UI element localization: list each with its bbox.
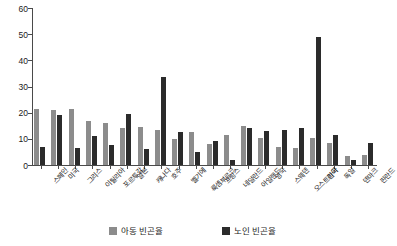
square-swatch-dark xyxy=(222,227,230,235)
bar-elderly-poverty xyxy=(316,37,321,165)
bar-elderly-poverty xyxy=(40,147,45,165)
x-axis-tick-label: 프랑스 xyxy=(223,167,241,185)
bar-elderly-poverty xyxy=(351,160,356,165)
y-axis-tick-mark xyxy=(28,60,32,61)
bar-group xyxy=(137,8,154,165)
bar-child-poverty xyxy=(293,148,298,165)
bar-child-poverty xyxy=(34,109,39,165)
bar-group xyxy=(275,8,292,165)
bar-child-poverty xyxy=(155,130,160,165)
y-axis-tick-mark xyxy=(28,113,32,114)
bar-child-poverty xyxy=(258,138,263,165)
legend-item[interactable]: 아동 빈곤율 xyxy=(109,227,163,236)
bar-child-poverty xyxy=(207,144,212,165)
y-axis-tick-label: 50 xyxy=(4,31,28,40)
bar-elderly-poverty xyxy=(195,152,200,165)
x-axis-tick-label: 덴마크 xyxy=(361,167,379,185)
bar-group xyxy=(102,8,119,165)
bar-child-poverty xyxy=(51,110,56,165)
bar-child-poverty xyxy=(189,132,194,165)
y-axis-tick-mark xyxy=(28,8,32,9)
bar-group xyxy=(119,8,136,165)
bar-child-poverty xyxy=(86,121,91,165)
x-axis-tick-label: 핀란드 xyxy=(379,167,397,185)
bar-child-poverty xyxy=(103,123,108,165)
bar-group xyxy=(292,8,309,165)
bar-elderly-poverty xyxy=(299,128,304,165)
bar-group xyxy=(206,8,223,165)
y-axis-tick-label: 20 xyxy=(4,109,28,118)
legend-item[interactable]: 노인 빈곤율 xyxy=(222,227,276,236)
bar-child-poverty xyxy=(310,138,315,165)
square-swatch-light xyxy=(109,227,117,235)
bar-group xyxy=(154,8,171,165)
bar-elderly-poverty xyxy=(368,143,373,165)
bar-group xyxy=(68,8,85,165)
bar-child-poverty xyxy=(276,147,281,165)
legend-label: 노인 빈곤율 xyxy=(234,227,276,236)
x-axis-tick-label: 스웨덴 xyxy=(292,167,310,185)
bar-child-poverty xyxy=(69,109,74,165)
y-axis-tick-mark xyxy=(28,34,32,35)
bar-child-poverty xyxy=(241,126,246,165)
bar-elderly-poverty xyxy=(213,141,218,165)
bar-child-poverty xyxy=(172,139,177,165)
bar-child-poverty xyxy=(362,155,367,165)
bar-elderly-poverty xyxy=(161,77,166,165)
x-axis-tick-label: 독일 xyxy=(342,167,356,181)
x-axis-tick-label: 호주 xyxy=(170,167,184,181)
legend-label: 아동 빈곤율 xyxy=(121,227,163,236)
y-axis-tick-label: 40 xyxy=(4,57,28,66)
x-axis-line xyxy=(32,165,377,166)
bar-elderly-poverty xyxy=(333,135,338,165)
bar-elderly-poverty xyxy=(57,115,62,165)
bar-child-poverty xyxy=(120,128,125,165)
chart-legend: 아동 빈곤율노인 빈곤율 xyxy=(0,222,385,240)
bar-group xyxy=(326,8,343,165)
bar-child-poverty xyxy=(138,127,143,165)
x-axis-tick-label: 벨기에 xyxy=(189,167,207,185)
y-axis-tick-mark xyxy=(28,165,32,166)
x-axis-tick-label: 그리스 xyxy=(85,167,103,185)
bar-group xyxy=(309,8,326,165)
bar-groups xyxy=(33,8,377,165)
bar-elderly-poverty xyxy=(178,132,183,165)
bar-group xyxy=(171,8,188,165)
y-axis-tick-mark xyxy=(28,87,32,88)
bar-group xyxy=(240,8,257,165)
bar-elderly-poverty xyxy=(282,130,287,165)
x-axis-tick-label: 미국 xyxy=(66,167,80,181)
bar-group xyxy=(344,8,361,165)
y-axis-tick-label: 0 xyxy=(4,162,28,171)
bar-group xyxy=(50,8,67,165)
bar-group xyxy=(188,8,205,165)
y-axis-tick-label: 10 xyxy=(4,135,28,144)
bar-child-poverty xyxy=(327,143,332,165)
plot-area xyxy=(32,8,377,166)
bar-elderly-poverty xyxy=(126,114,131,165)
bar-child-poverty xyxy=(345,156,350,165)
bar-elderly-poverty xyxy=(144,149,149,165)
x-axis-category-labels: 스페인미국그리스이탈리아포르투갈일본캐나다호주벨기에룩셈부르크프랑스네덜란드아일… xyxy=(32,167,377,213)
bar-elderly-poverty xyxy=(75,148,80,165)
bar-group xyxy=(361,8,378,165)
y-axis-tick-mark xyxy=(28,139,32,140)
bar-group xyxy=(257,8,274,165)
bar-child-poverty xyxy=(224,135,229,165)
bar-group xyxy=(223,8,240,165)
bar-group xyxy=(85,8,102,165)
bar-elderly-poverty xyxy=(247,128,252,165)
bar-elderly-poverty xyxy=(92,136,97,165)
y-axis-tick-label: 60 xyxy=(4,5,28,14)
bar-elderly-poverty xyxy=(264,131,269,165)
y-axis-labels: 0102030405060 xyxy=(0,8,28,166)
bar-elderly-poverty xyxy=(230,160,235,165)
bar-elderly-poverty xyxy=(109,145,114,165)
y-axis-tick-label: 30 xyxy=(4,83,28,92)
bar-group xyxy=(33,8,50,165)
